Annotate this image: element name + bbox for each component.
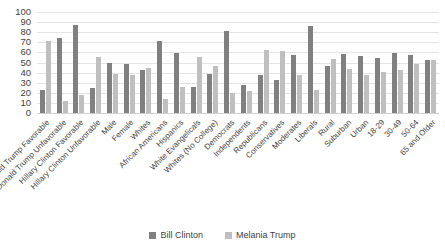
bar [358, 56, 363, 113]
legend-item[interactable]: Bill Clinton [149, 230, 203, 240]
bar [314, 90, 319, 113]
y-axis-tick: 20 [20, 88, 31, 98]
bar-group [305, 12, 322, 113]
bar-group [87, 12, 104, 113]
bar [341, 54, 346, 113]
y-axis-tick: 40 [20, 68, 31, 78]
bar [197, 57, 202, 113]
bar-group [221, 12, 238, 113]
bar [280, 51, 285, 113]
y-axis-tick: 0 [26, 108, 31, 118]
bar [325, 66, 330, 113]
bar-group [37, 12, 54, 113]
bar [124, 64, 129, 113]
bar-group [154, 12, 171, 113]
bar [241, 85, 246, 113]
bar [308, 26, 313, 113]
bar-group [188, 12, 205, 113]
bar [392, 53, 397, 113]
bar [207, 74, 212, 113]
bar [213, 66, 218, 113]
y-axis-tick: 70 [20, 38, 31, 48]
bar-group [355, 12, 372, 113]
bar [146, 68, 151, 113]
bar [174, 53, 179, 113]
bar [258, 75, 263, 113]
bar [224, 31, 229, 113]
legend-label: Melania Trump [236, 230, 296, 240]
bar [331, 59, 336, 113]
y-axis-tick: 60 [20, 48, 31, 58]
bar [408, 55, 413, 113]
bar [57, 38, 62, 113]
bar-group [121, 12, 138, 113]
bar-chart: 1009080706050403020100 Donald Trump Favo… [0, 0, 445, 248]
legend-swatch-icon [149, 232, 156, 239]
bar [247, 91, 252, 113]
y-axis-tick: 10 [20, 98, 31, 108]
x-axis-label-slot: 65 and Older [422, 116, 439, 208]
bar [46, 41, 51, 113]
bar [375, 58, 380, 113]
bar [40, 90, 45, 113]
plot-area [37, 12, 439, 113]
bar [90, 88, 95, 113]
bar-group [422, 12, 439, 113]
bar [431, 60, 436, 113]
bar-group [389, 12, 406, 113]
bar-group [104, 12, 121, 113]
bar [140, 70, 145, 113]
bar-group [339, 12, 356, 113]
bar [73, 25, 78, 113]
legend-swatch-icon [225, 232, 232, 239]
y-axis-tick: 50 [20, 58, 31, 68]
bar-group [138, 12, 155, 113]
y-axis: 1009080706050403020100 [0, 12, 34, 113]
bar-group [288, 12, 305, 113]
bar [79, 95, 84, 113]
bar-group [372, 12, 389, 113]
bar [414, 64, 419, 113]
bar [381, 72, 386, 113]
y-axis-tick: 90 [20, 17, 31, 27]
bar-group [171, 12, 188, 113]
legend-item[interactable]: Melania Trump [225, 230, 296, 240]
bar [130, 75, 135, 113]
bar [63, 101, 68, 113]
bar-groups [37, 12, 439, 113]
bar [364, 75, 369, 113]
bar [157, 41, 162, 113]
bar [180, 87, 185, 113]
bar [264, 50, 269, 113]
bar-group [255, 12, 272, 113]
bar-group [71, 12, 88, 113]
legend-label: Bill Clinton [160, 230, 203, 240]
chart-legend: Bill ClintonMelania Trump [0, 230, 445, 240]
y-axis-tick: 80 [20, 27, 31, 37]
bar [347, 69, 352, 113]
bar [274, 80, 279, 113]
bar [291, 55, 296, 113]
bar [96, 57, 101, 113]
bar [230, 93, 235, 113]
bar [163, 99, 168, 113]
bar [107, 63, 112, 114]
bar-group [322, 12, 339, 113]
y-axis-tick: 100 [15, 7, 31, 17]
axis-baseline [37, 113, 439, 114]
bar-group [272, 12, 289, 113]
bar-group [54, 12, 71, 113]
bar-group [238, 12, 255, 113]
bar [425, 60, 430, 113]
bar [113, 74, 118, 113]
bar-group [205, 12, 222, 113]
bar [191, 87, 196, 113]
y-axis-tick: 30 [20, 78, 31, 88]
bar [398, 70, 403, 113]
x-axis-labels: Donald Trump FavorableDonald Trump Unfav… [37, 116, 439, 208]
bar-group [406, 12, 423, 113]
bar [297, 75, 302, 113]
